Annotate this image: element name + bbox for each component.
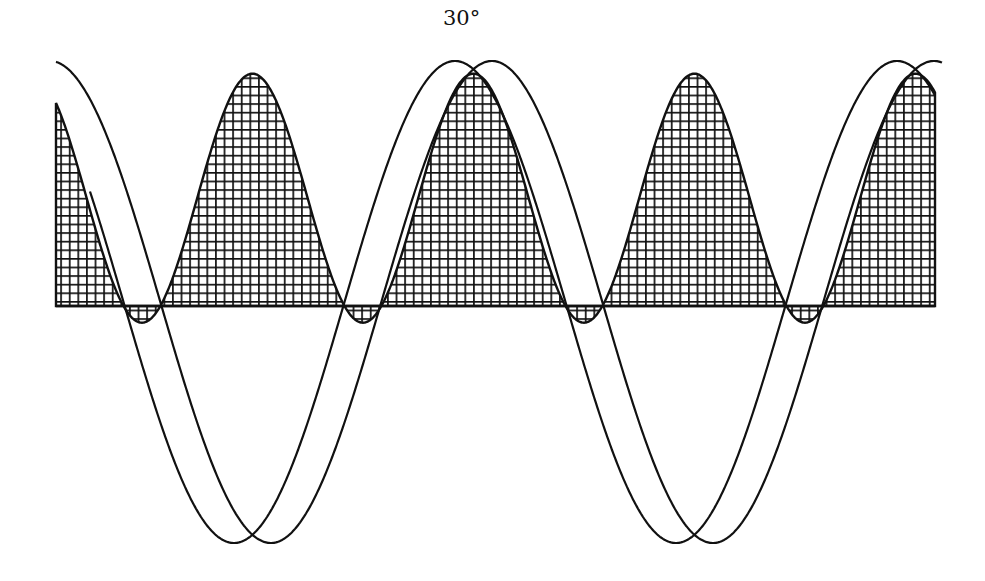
phase-diagram: 30°	[0, 0, 985, 581]
power-area	[56, 74, 935, 323]
waveform-plot	[0, 0, 985, 581]
phase-angle-label: 30°	[443, 6, 480, 30]
